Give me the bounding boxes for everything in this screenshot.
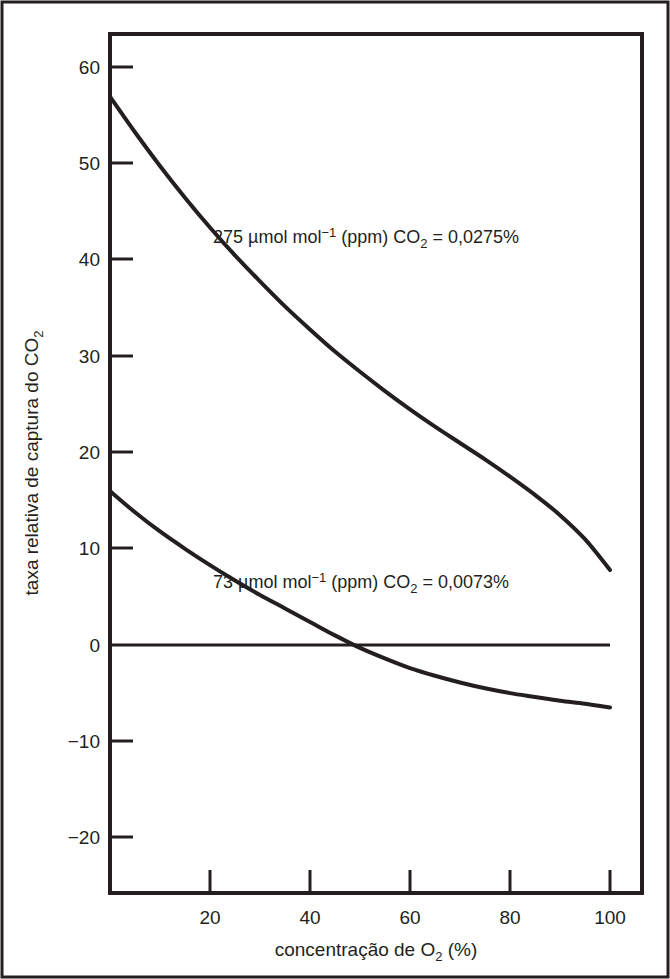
y-tick-label-60: 60 (79, 57, 100, 78)
x-tick-label-60: 60 (399, 907, 420, 928)
page-border (2, 2, 668, 977)
co2-uptake-chart: 60 50 40 30 20 10 0 −10 −20 20 40 60 80 … (0, 0, 670, 979)
y-tick-label-minus-20: −20 (68, 827, 100, 848)
x-tick-label-80: 80 (499, 907, 520, 928)
curve-275-ppm (110, 97, 610, 570)
y-tick-label-10: 10 (79, 538, 100, 559)
y-tick-label-40: 40 (79, 249, 100, 270)
y-tick-label-0: 0 (89, 635, 100, 656)
y-tick-label-minus-10: −10 (68, 731, 100, 752)
x-tick-label-40: 40 (299, 907, 320, 928)
curve-73-ppm (110, 491, 610, 707)
x-tick-label-20: 20 (199, 907, 220, 928)
y-axis-title: taxa relativa de captura do CO2 (21, 331, 46, 596)
plot-frame (110, 34, 642, 893)
y-tick-label-30: 30 (79, 346, 100, 367)
y-axis-ticks (110, 67, 133, 837)
y-tick-labels: 60 50 40 30 20 10 0 −10 −20 (68, 57, 100, 848)
x-axis-ticks (210, 870, 610, 893)
figure-page: 60 50 40 30 20 10 0 −10 −20 20 40 60 80 … (0, 0, 670, 979)
x-axis-title: concentração de O2 (%) (275, 939, 478, 964)
x-tick-label-100: 100 (594, 907, 626, 928)
annotation-275-ppm: 275 µmol mol−1 (ppm) CO2 = 0,0275% (213, 225, 519, 251)
y-tick-label-50: 50 (79, 153, 100, 174)
y-tick-label-20: 20 (79, 442, 100, 463)
x-tick-labels: 20 40 60 80 100 (199, 907, 625, 928)
